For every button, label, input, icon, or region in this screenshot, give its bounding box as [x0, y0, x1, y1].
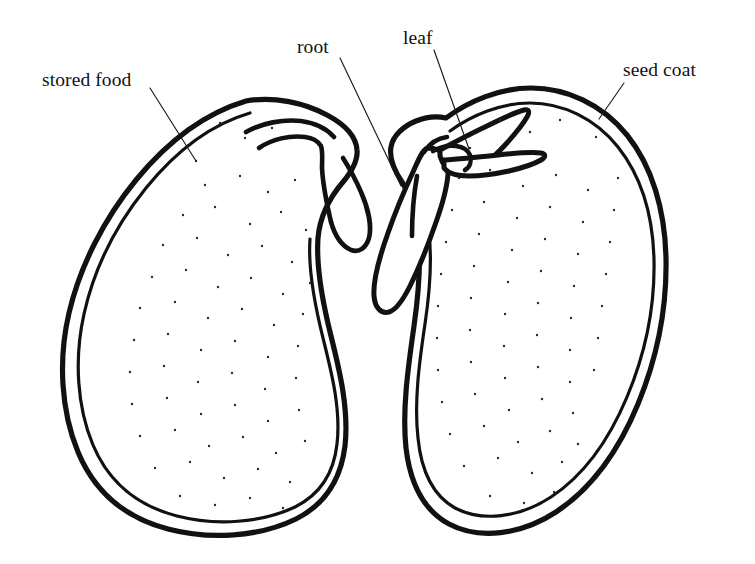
label-leaf: leaf — [403, 28, 433, 48]
seed-diagram-canvas: stored food root leaf seed coat — [0, 0, 755, 564]
leader-seed-coat — [599, 83, 624, 119]
label-seed-coat: seed coat — [623, 60, 696, 80]
label-root: root — [297, 37, 329, 57]
left-cotyledon — [63, 99, 370, 535]
label-stored-food: stored food — [42, 70, 131, 90]
